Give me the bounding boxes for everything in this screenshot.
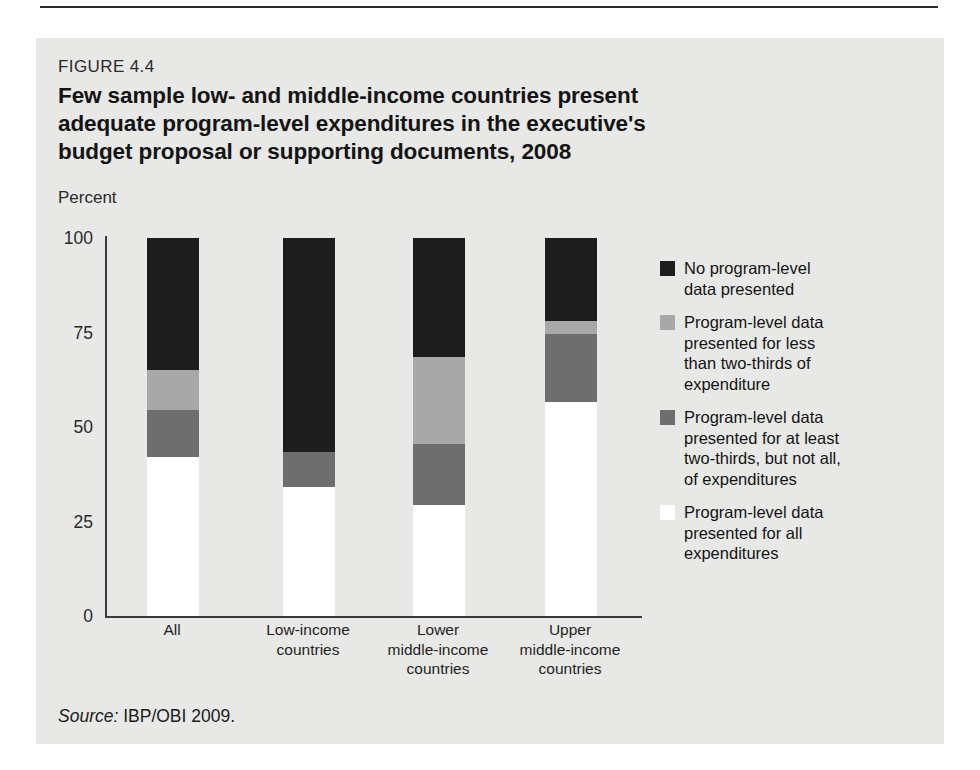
legend-item[interactable]: No program-level data presented	[660, 258, 930, 299]
y-axis-tick-label: 25	[74, 511, 93, 532]
bar-segment	[545, 402, 597, 616]
bar-1[interactable]	[147, 238, 199, 616]
bar-3[interactable]	[413, 238, 465, 616]
legend-label: No program-level data presented	[684, 258, 811, 299]
y-axis-tick-label: 100	[64, 228, 93, 249]
x-axis-category-label: Upper middle-income countries	[495, 620, 645, 679]
legend-swatch-icon	[660, 315, 675, 330]
x-axis-category-label: Lower middle-income countries	[363, 620, 513, 679]
x-axis-category-label: Low-income countries	[233, 620, 383, 659]
bar-segment	[545, 238, 597, 321]
source-note: Source: IBP/OBI 2009.	[58, 706, 235, 727]
legend-label: Program-level data presented for at leas…	[684, 407, 841, 489]
bar-4[interactable]	[545, 238, 597, 616]
legend-label: Program-level data presented for less th…	[684, 312, 823, 394]
source-value: IBP/OBI 2009.	[118, 706, 235, 726]
legend-label: Program-level data presented for all exp…	[684, 502, 823, 564]
bar-segment	[283, 452, 335, 488]
y-axis-tick-label: 75	[74, 322, 93, 343]
bar-segment	[413, 444, 465, 504]
bar-segment	[413, 505, 465, 617]
y-axis-tick-label: 0	[83, 606, 93, 627]
bar-segment	[545, 321, 597, 334]
legend-item[interactable]: Program-level data presented for at leas…	[660, 407, 930, 489]
x-axis-line	[105, 616, 642, 618]
legend-swatch-icon	[660, 261, 675, 276]
y-axis-unit-label: Percent	[58, 188, 117, 208]
bar-segment	[147, 370, 199, 410]
x-axis-category-label: All	[97, 620, 247, 640]
bar-segment	[147, 410, 199, 457]
bar-segment	[413, 238, 465, 357]
bar-segment	[545, 334, 597, 402]
legend-swatch-icon	[660, 410, 675, 425]
legend-item[interactable]: Program-level data presented for all exp…	[660, 502, 930, 564]
bar-segment	[147, 457, 199, 616]
figure-number: FIGURE 4.4	[58, 57, 155, 77]
figure-title: Few sample low- and middle-income countr…	[58, 82, 698, 166]
bar-segment	[283, 487, 335, 616]
bar-2[interactable]	[283, 238, 335, 616]
y-axis-tick-label: 50	[74, 417, 93, 438]
bar-segment	[283, 238, 335, 452]
page-top-rule	[40, 6, 938, 8]
legend-item[interactable]: Program-level data presented for less th…	[660, 312, 930, 394]
chart-legend: No program-level data presentedProgram-l…	[660, 258, 930, 577]
plot-area: 0255075100AllLow-income countriesLower m…	[105, 238, 640, 616]
legend-swatch-icon	[660, 505, 675, 520]
source-label: Source:	[58, 706, 118, 726]
bar-segment	[413, 357, 465, 444]
bar-segment	[147, 238, 199, 370]
